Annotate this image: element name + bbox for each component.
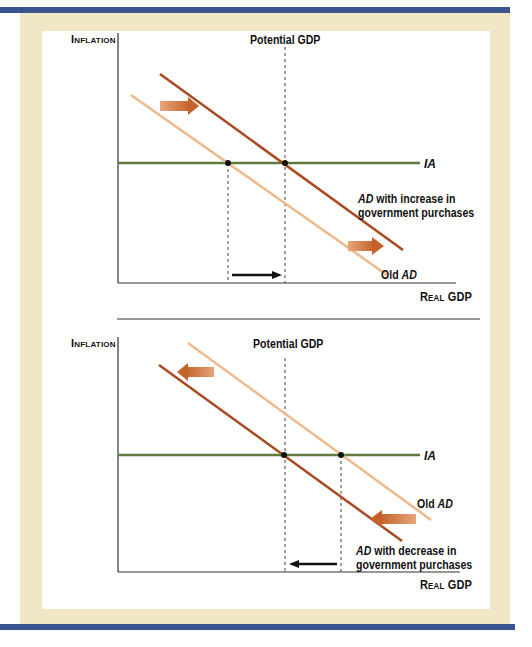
top-old-ad-prefix: Old <box>381 268 402 282</box>
top-new-ad-label-ad: AD <box>358 192 373 206</box>
top-old-equilibrium-dot <box>225 160 231 166</box>
bottom-x-axis-label: Real GDP <box>420 578 472 592</box>
top-old-ad-label: Old AD <box>381 268 417 282</box>
bottom-potential-gdp-label: Potential GDP <box>253 337 323 351</box>
top-gdp-change-arrow-icon <box>232 271 282 279</box>
top-potential-gdp-label: Potential GDP <box>250 33 320 47</box>
bottom-shift-arrow-upper-icon <box>177 363 214 381</box>
top-ia-label: IA <box>424 157 436 171</box>
bottom-ia-label: IA <box>424 449 436 463</box>
top-old-ad-ad: AD <box>402 268 417 282</box>
top-new-equilibrium-dot <box>282 160 288 166</box>
bottom-y-axis-label: Inflation <box>71 336 116 350</box>
bottom-old-ad-line <box>188 343 431 520</box>
bottom-shift-arrow-lower-icon <box>370 510 416 528</box>
bottom-old-equilibrium-dot <box>338 452 344 458</box>
bottom-new-ad-line <box>159 365 402 541</box>
top-x-axis-label: Real GDP <box>420 290 472 304</box>
bottom-gdp-change-arrow-icon <box>289 560 337 568</box>
top-y-axis-label: Inflation <box>71 32 116 46</box>
top-new-ad-label-rest: with increase in <box>373 192 455 206</box>
bottom-new-ad-label-line2: government purchases <box>356 558 472 572</box>
top-shift-arrow-upper-icon <box>160 97 199 115</box>
bottom-old-ad-prefix: Old <box>417 497 438 511</box>
bottom-new-ad-label-rest: with decrease in <box>371 544 456 558</box>
bottom-new-equilibrium-dot <box>281 452 287 458</box>
bottom-chart <box>118 337 460 572</box>
bottom-old-ad-label: Old AD <box>417 497 453 511</box>
bottom-new-ad-label-ad: AD <box>356 544 371 558</box>
top-new-ad-label-line2: government purchases <box>358 206 474 220</box>
bottom-old-ad-ad: AD <box>438 497 453 511</box>
top-chart <box>118 33 456 283</box>
bottom-new-ad-label-line1: AD with decrease in <box>356 544 456 558</box>
top-new-ad-label-line1: AD with increase in <box>358 192 455 206</box>
